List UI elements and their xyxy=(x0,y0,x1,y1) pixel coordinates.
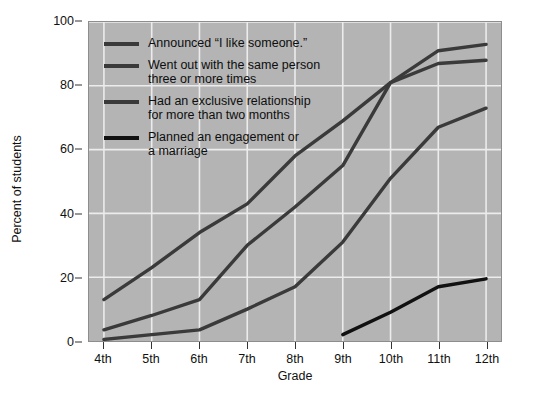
x-tick-mark xyxy=(151,342,152,349)
x-tick-label: 7th xyxy=(238,353,255,366)
x-tick-label: 6th xyxy=(190,353,207,366)
x-tick-mark xyxy=(247,342,248,349)
x-axis-title: Grade xyxy=(88,369,502,383)
y-tick-label: 80 xyxy=(60,79,74,92)
x-tick-mark xyxy=(391,342,392,349)
legend-swatch-icon xyxy=(104,100,139,104)
y-tick-mark xyxy=(75,85,82,86)
x-tick-label: 10th xyxy=(379,353,403,366)
legend-label: Went out with the same person three or m… xyxy=(148,58,320,87)
series-line-3 xyxy=(343,279,486,335)
x-tick-mark xyxy=(343,342,344,349)
x-tick-mark xyxy=(439,342,440,349)
y-tick-label: 60 xyxy=(60,143,74,156)
legend-label: Announced “I like someone.” xyxy=(148,36,307,51)
legend-entry: Had an exclusive relationship for more t… xyxy=(104,94,354,123)
y-tick-label: 20 xyxy=(60,272,74,285)
x-tick-label: 9th xyxy=(334,353,351,366)
y-tick-mark xyxy=(75,277,82,278)
x-tick-mark xyxy=(295,342,296,349)
x-tick-label: 12th xyxy=(475,353,499,366)
y-tick-mark xyxy=(75,149,82,150)
x-tick-label: 8th xyxy=(286,353,303,366)
legend-swatch-icon xyxy=(104,64,139,68)
legend-label: Planned an engagement or a marriage xyxy=(148,130,299,159)
x-tick-mark xyxy=(103,342,104,349)
legend-label: Had an exclusive relationship for more t… xyxy=(148,94,311,123)
legend: Announced “I like someone.”Went out with… xyxy=(104,36,354,166)
y-tick-label: 0 xyxy=(67,336,74,349)
legend-entry: Announced “I like someone.” xyxy=(104,36,354,51)
y-axis-title: Percent of students xyxy=(10,109,24,269)
x-tick-label: 4th xyxy=(94,353,111,366)
legend-swatch-icon xyxy=(104,42,139,46)
legend-entry: Planned an engagement or a marriage xyxy=(104,130,354,159)
x-axis: 4th5th6th7th8th9th10th11th12th xyxy=(88,342,502,392)
y-tick-label: 40 xyxy=(60,207,74,220)
y-tick-label: 100 xyxy=(53,15,74,28)
legend-entry: Went out with the same person three or m… xyxy=(104,58,354,87)
y-tick-mark xyxy=(75,21,82,22)
x-tick-label: 11th xyxy=(427,353,450,366)
x-tick-mark xyxy=(487,342,488,349)
legend-swatch-icon xyxy=(104,136,139,140)
x-tick-mark xyxy=(199,342,200,349)
x-tick-label: 5th xyxy=(142,353,159,366)
chart-figure: 020406080100 Percent of students 4th5th6… xyxy=(0,0,534,393)
y-tick-mark xyxy=(75,213,82,214)
y-tick-mark xyxy=(75,342,82,343)
